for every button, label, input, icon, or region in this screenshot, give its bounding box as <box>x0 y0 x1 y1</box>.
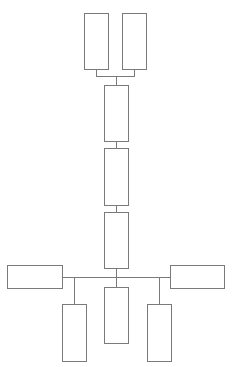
node-top-left <box>84 13 109 70</box>
node-bottom-center <box>104 287 129 344</box>
node-bottom-left <box>62 304 87 362</box>
node-spine-2 <box>104 148 129 206</box>
connector-bus-to-left <box>74 277 75 304</box>
connector-top-to-spine-1 <box>116 76 117 85</box>
node-bottom-right <box>147 304 172 362</box>
node-right-wide <box>170 265 225 289</box>
connector-spine-3-to-bus <box>116 269 117 277</box>
connector-bus-to-right <box>159 277 160 304</box>
node-spine-3 <box>104 212 129 269</box>
block-diagram <box>0 0 239 367</box>
node-left-wide <box>7 265 63 289</box>
node-top-right <box>122 13 147 70</box>
node-spine-1 <box>104 85 129 142</box>
connector-bus-to-center <box>116 277 117 287</box>
